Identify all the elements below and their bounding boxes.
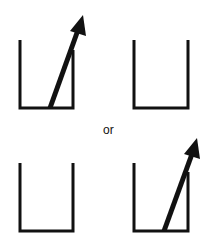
container-top-right — [134, 40, 188, 108]
container-outline — [134, 40, 188, 108]
arrow-head-icon — [70, 15, 86, 36]
container-bottom-right — [134, 138, 200, 231]
container-top-left — [20, 15, 86, 108]
container-outline — [134, 163, 188, 231]
arrow-head-icon — [184, 138, 200, 159]
container-bottom-left — [20, 163, 73, 231]
container-outline — [20, 40, 73, 108]
or-separator-label: or — [103, 123, 114, 137]
container-outline — [20, 163, 73, 231]
